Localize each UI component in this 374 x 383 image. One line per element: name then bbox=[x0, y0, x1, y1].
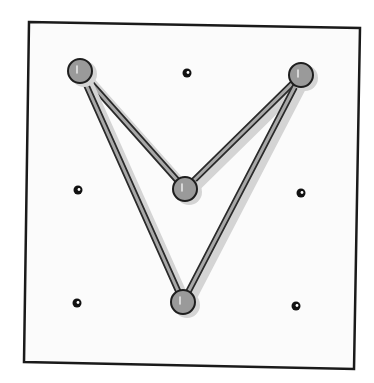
peg-highlight bbox=[296, 304, 299, 307]
peg-head bbox=[173, 177, 197, 201]
peg bbox=[74, 186, 83, 195]
peg-highlight bbox=[301, 191, 304, 194]
peg-head bbox=[171, 290, 195, 314]
peg-highlight bbox=[187, 71, 190, 74]
peg bbox=[292, 302, 301, 311]
peg-highlight bbox=[78, 188, 81, 191]
peg bbox=[183, 69, 192, 78]
peg-head bbox=[289, 63, 313, 87]
peg-highlight bbox=[77, 301, 80, 304]
peg-head bbox=[68, 59, 92, 83]
peg bbox=[73, 299, 82, 308]
geoboard-diagram bbox=[0, 0, 374, 383]
peg bbox=[297, 189, 306, 198]
